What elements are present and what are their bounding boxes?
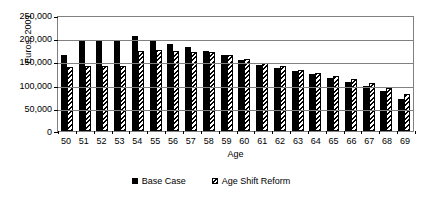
bar-group <box>324 17 342 131</box>
bar-group <box>147 17 165 131</box>
x-tick-label: 61 <box>253 134 271 148</box>
x-tick-label: 64 <box>307 134 325 148</box>
gridline <box>58 40 413 41</box>
x-tick-label: 53 <box>111 134 129 148</box>
bar-group <box>378 17 396 131</box>
x-axis-title: Age <box>57 149 414 159</box>
bar-group <box>271 17 289 131</box>
bar-group <box>200 17 218 131</box>
bar-age-shift-reform <box>280 66 286 131</box>
bar-group <box>111 17 129 131</box>
y-tick-mark <box>54 40 58 41</box>
legend-item: Base Case <box>132 176 186 186</box>
y-axis-tick-labels: 250,000200,000150,000100,00050,0000 <box>4 0 52 204</box>
gridline <box>58 63 413 64</box>
x-tick-label: 67 <box>360 134 378 148</box>
y-tick-mark <box>54 110 58 111</box>
bar-group <box>218 17 236 131</box>
bar-group <box>129 17 147 131</box>
bar-group <box>360 17 378 131</box>
x-tick-label: 56 <box>164 134 182 148</box>
gridline <box>58 87 413 88</box>
bar-age-shift-reform <box>227 55 233 131</box>
bar-age-shift-reform <box>156 50 162 131</box>
bar-age-shift-reform <box>298 70 304 131</box>
legend-item: Age Shift Reform <box>212 176 291 186</box>
bar-age-shift-reform <box>333 76 339 131</box>
bar-age-shift-reform <box>404 94 410 131</box>
x-tick-label: 50 <box>57 134 75 148</box>
bar-age-shift-reform <box>315 73 321 131</box>
bar-age-shift-reform <box>369 83 375 131</box>
bar-group <box>165 17 183 131</box>
legend-label: Age Shift Reform <box>222 176 291 186</box>
x-tick-label: 52 <box>93 134 111 148</box>
x-tick-label: 54 <box>128 134 146 148</box>
x-tick-label: 66 <box>343 134 361 148</box>
bar-groups <box>58 17 413 131</box>
bar-group <box>395 17 413 131</box>
bar-group <box>76 17 94 131</box>
bar-age-shift-reform <box>262 63 268 131</box>
bar-age-shift-reform <box>244 59 250 131</box>
x-tick-label: 65 <box>325 134 343 148</box>
y-tick-label: 50,000 <box>4 104 52 113</box>
y-tick-mark <box>54 63 58 64</box>
y-tick-label: 250,000 <box>4 12 52 21</box>
chart-legend: Base CaseAge Shift Reform <box>0 176 422 186</box>
x-tick-label: 69 <box>396 134 414 148</box>
legend-swatch-base-case <box>132 178 138 184</box>
bar-group <box>289 17 307 131</box>
y-tick-label: 150,000 <box>4 58 52 67</box>
bar-group <box>236 17 254 131</box>
y-tick-label: 100,000 <box>4 81 52 90</box>
x-tick-label: 58 <box>200 134 218 148</box>
bar-age-shift-reform <box>120 66 126 131</box>
x-tick-label: 62 <box>271 134 289 148</box>
bar-group <box>58 17 76 131</box>
y-tick-mark <box>54 17 58 18</box>
bar-age-shift-reform <box>67 67 73 131</box>
x-tick-label: 68 <box>378 134 396 148</box>
x-tick-label: 59 <box>218 134 236 148</box>
bar-age-shift-reform <box>102 66 108 131</box>
x-tick-mark <box>415 131 416 134</box>
bar-group <box>342 17 360 131</box>
legend-label: Base Case <box>142 176 186 186</box>
bar-group <box>94 17 112 131</box>
x-axis-tick-labels: 5051525354555657585960616263646566676869 <box>57 134 414 148</box>
y-tick-mark <box>54 87 58 88</box>
gridline <box>58 110 413 111</box>
plot-area <box>57 16 414 132</box>
bar-group <box>307 17 325 131</box>
bar-chart: Euros, 2001 250,000200,000150,000100,000… <box>0 0 422 204</box>
bar-group <box>253 17 271 131</box>
legend-swatch-age-shift-reform <box>212 178 218 184</box>
bar-age-shift-reform <box>85 66 91 131</box>
x-tick-label: 51 <box>75 134 93 148</box>
bar-group <box>182 17 200 131</box>
x-tick-label: 55 <box>146 134 164 148</box>
y-tick-label: 200,000 <box>4 35 52 44</box>
x-tick-label: 57 <box>182 134 200 148</box>
x-tick-label: 63 <box>289 134 307 148</box>
y-tick-label: 0 <box>4 128 52 137</box>
x-tick-label: 60 <box>235 134 253 148</box>
